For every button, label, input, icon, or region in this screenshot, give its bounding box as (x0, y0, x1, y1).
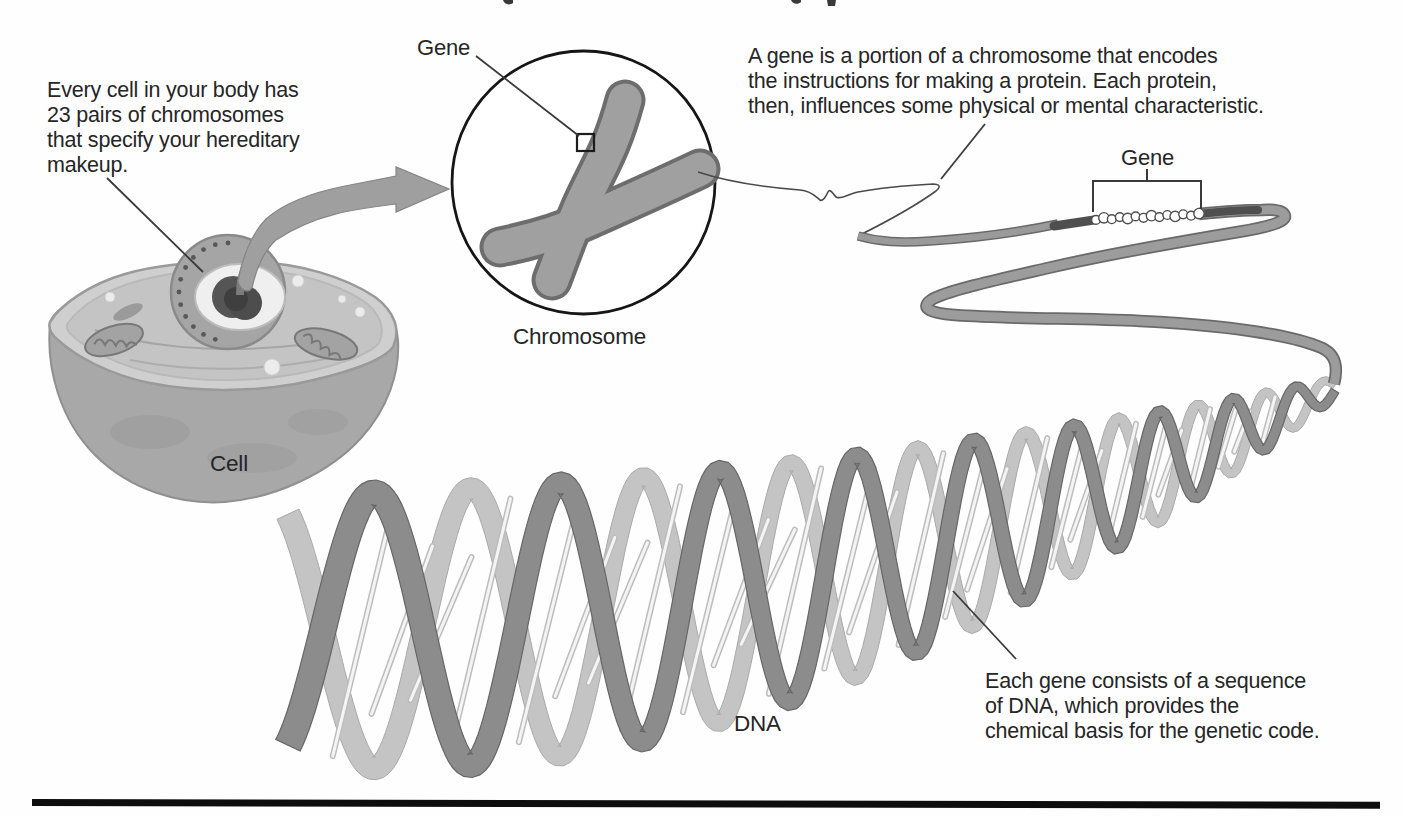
condensed-strand-segment (1054, 220, 1094, 226)
dna-note-line: Each gene consists of a sequence (985, 669, 1320, 694)
nucleosome-beads (1092, 208, 1205, 224)
gene-bracket-label: Gene (1121, 145, 1174, 171)
page-crop-artifact (503, 0, 836, 6)
condensed-strand-segment (1199, 210, 1258, 214)
cell-note: Every cell in your body has 23 pairs of … (47, 78, 300, 178)
leader-line-cell-note (107, 178, 203, 272)
leader-line-gene-note (941, 124, 985, 179)
cell-note-line: 23 pairs of chromosomes (47, 103, 300, 128)
chromatin-thin-fiber (698, 172, 939, 235)
gene-note-line: then, influences some physical or mental… (748, 94, 1264, 119)
dna-note: Each gene consists of a sequence of DNA,… (985, 669, 1320, 744)
cell-note-line: makeup. (47, 153, 300, 178)
dna-note-line: of DNA, which provides the (985, 694, 1320, 719)
cell-label: Cell (210, 451, 248, 477)
chromosome-magnifier (452, 51, 715, 314)
gene-pointer-label: Gene (417, 35, 470, 61)
chromatin-strand (698, 172, 1336, 384)
dna-label: DNA (734, 711, 781, 737)
cell-note-line: Every cell in your body has (47, 78, 300, 103)
bottom-rule (32, 799, 1380, 809)
gene-note-line: A gene is a portion of a chromosome that… (748, 44, 1264, 69)
gene-note-line: the instructions for making a protein. E… (748, 69, 1264, 94)
gene-note: A gene is a portion of a chromosome that… (748, 44, 1264, 119)
cell-note-line: that specify your hereditary (47, 128, 300, 153)
gene-bracket (1093, 169, 1201, 212)
chromosome-label: Chromosome (513, 324, 646, 350)
figure-genes-chromosomes-dna: Every cell in your body has 23 pairs of … (0, 0, 1403, 817)
dna-note-line: chemical basis for the genetic code. (985, 719, 1320, 744)
